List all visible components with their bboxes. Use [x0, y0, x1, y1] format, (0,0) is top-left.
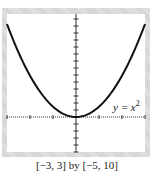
window-caption: [−3, 3] by [−5, 10] — [0, 159, 154, 171]
graph-svg: y = x2 — [0, 0, 154, 174]
axes — [7, 14, 145, 152]
curve-label: y = x2 — [112, 99, 140, 113]
